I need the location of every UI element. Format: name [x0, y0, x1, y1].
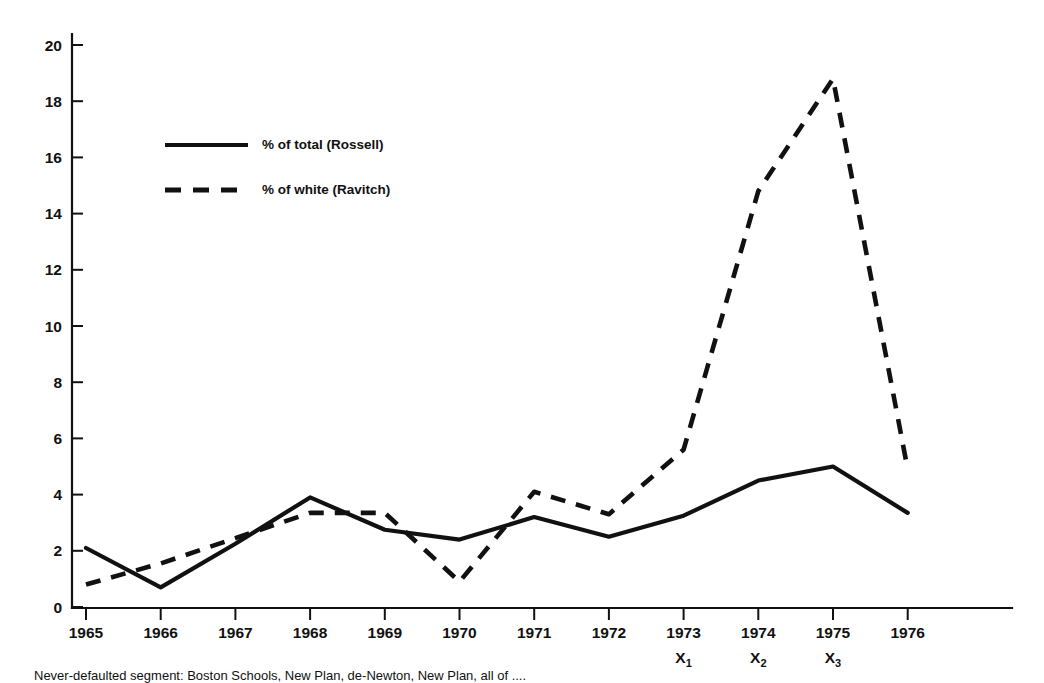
- y-tick-label-4: 4: [53, 486, 62, 503]
- x-tick-label-1973: 1973: [666, 624, 701, 641]
- annotation-x2-base: X: [750, 649, 761, 666]
- x-tick-label-1971: 1971: [517, 624, 552, 641]
- y-tick-label-14: 14: [45, 205, 63, 222]
- x-tick-label-1969: 1969: [368, 624, 403, 641]
- y-tick-label-0: 0: [53, 599, 62, 616]
- legend-label-percent-of-total: % of total (Rossell): [262, 137, 384, 152]
- y-tick-label-10: 10: [45, 318, 62, 335]
- annotation-x1-base: X: [675, 649, 686, 666]
- y-tick-label-20: 20: [45, 37, 62, 54]
- figure-caption: Never-defaulted segment: Boston Schools,…: [34, 668, 1014, 683]
- x-tick-label-1966: 1966: [143, 624, 178, 641]
- y-tick-label-12: 12: [45, 261, 62, 278]
- x-tick-label-1967: 1967: [218, 624, 252, 641]
- legend-label-percent-of-white: % of white (Ravitch): [262, 182, 390, 197]
- x-tick-label-1972: 1972: [592, 624, 626, 641]
- x-tick-label-1968: 1968: [293, 624, 328, 641]
- x-tick-label-1965: 1965: [69, 624, 104, 641]
- y-tick-label-2: 2: [53, 542, 62, 559]
- x-tick-label-1970: 1970: [442, 624, 476, 641]
- y-tick-label-16: 16: [45, 149, 63, 166]
- x-tick-label-1974: 1974: [741, 624, 776, 641]
- x-tick-label-1976: 1976: [890, 624, 925, 641]
- x-tick-label-1975: 1975: [816, 624, 851, 641]
- annotation-x3-base: X: [825, 649, 836, 666]
- y-tick-label-8: 8: [53, 374, 62, 391]
- y-tick-label-18: 18: [45, 93, 63, 110]
- y-tick-label-6: 6: [53, 430, 62, 447]
